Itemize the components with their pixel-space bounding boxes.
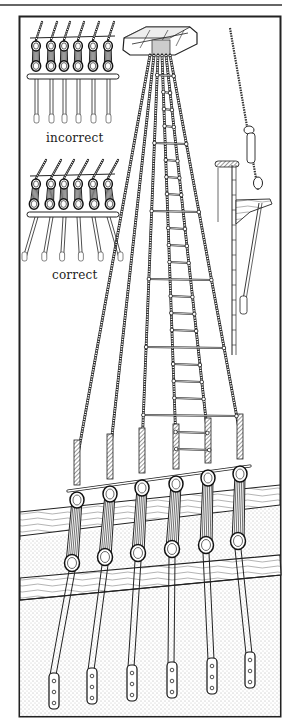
clove-hitch [184, 142, 188, 146]
inset-channel [27, 74, 119, 79]
clove-hitch [197, 210, 201, 214]
bolt [248, 680, 252, 684]
bolt [170, 679, 174, 683]
clove-hitch [170, 108, 174, 112]
clove-hitch [185, 244, 189, 248]
deadeye-pair [103, 41, 112, 71]
bolt [90, 674, 94, 678]
deadeye-pair [88, 41, 97, 71]
deadeye-pair [89, 179, 99, 209]
clove-hitch [150, 209, 154, 213]
deadeye-pair [59, 179, 68, 209]
clove-hitch [168, 260, 172, 264]
inset-channel [27, 212, 119, 217]
lower-deadeye [165, 541, 180, 558]
incorrect-label: incorrect [46, 131, 103, 145]
clove-hitch [207, 448, 211, 452]
serving [74, 440, 80, 485]
clove-hitch [210, 278, 214, 282]
clove-hitch [172, 74, 176, 78]
clove-hitch [144, 345, 148, 349]
clove-hitch [174, 430, 178, 434]
clove-hitch [155, 73, 159, 77]
clove-hitch [187, 261, 191, 265]
clove-hitch [164, 158, 168, 162]
clove-hitch [235, 414, 239, 418]
clove-hitch [179, 193, 183, 197]
deadeye-pair [74, 179, 83, 209]
clove-hitch [171, 362, 175, 366]
clove-hitch [153, 141, 157, 145]
clove-hitch [202, 397, 206, 401]
clove-hitch [191, 295, 195, 299]
clove-hitch [167, 243, 171, 247]
clove-hitch [198, 363, 202, 367]
bolt [130, 671, 134, 675]
clove-hitch [163, 124, 167, 128]
clove-hitch [170, 328, 174, 332]
clove-hitch [165, 175, 169, 179]
clove-hitch [172, 379, 176, 383]
bolt [210, 664, 214, 668]
clove-hitch [222, 346, 226, 350]
bolt [210, 675, 214, 679]
deadeye-pair [59, 41, 68, 71]
clove-hitch [162, 90, 166, 94]
clove-hitch [178, 176, 182, 180]
clove-hitch [147, 277, 151, 281]
serving [139, 428, 145, 473]
upper-deadeye [201, 470, 215, 486]
clove-hitch [206, 431, 210, 435]
bolt [210, 686, 214, 690]
serving [205, 418, 211, 463]
clove-hitch [169, 311, 173, 315]
clove-hitch [142, 413, 146, 417]
clove-hitch [169, 294, 173, 298]
clove-hitch [200, 380, 204, 384]
deadeye-pair [45, 179, 55, 209]
bolt [90, 685, 94, 689]
bolt [170, 690, 174, 694]
bolt [248, 669, 252, 673]
clove-hitch [174, 447, 178, 451]
bolt [248, 658, 252, 662]
clove-hitch [172, 125, 176, 129]
bolt [90, 696, 94, 700]
lower-deadeye [199, 537, 214, 554]
clove-hitch [173, 396, 177, 400]
rigging-illustration [0, 0, 294, 727]
clove-hitch [165, 192, 169, 196]
bolt [130, 693, 134, 697]
bolt [170, 668, 174, 672]
clove-hitch [162, 107, 166, 111]
deadeye-pair [31, 41, 40, 71]
lower-deadeye [131, 545, 146, 562]
bolt [52, 701, 56, 705]
upper-deadeye [233, 466, 247, 482]
clove-hitch [168, 91, 172, 95]
upper-deadeye [135, 480, 149, 496]
deadeye-pair [73, 41, 82, 71]
lower-deadeye [65, 555, 80, 572]
clove-hitch [183, 227, 187, 231]
upper-deadeye [70, 492, 84, 508]
upper-deadeye [169, 476, 183, 492]
lower-deadeye [231, 533, 246, 550]
lower-deadeye [98, 549, 113, 566]
correct-label: correct [52, 268, 97, 282]
bolt [52, 679, 56, 683]
clove-hitch [166, 226, 170, 230]
clove-hitch [194, 329, 198, 333]
bolt [52, 690, 56, 694]
serving [107, 434, 113, 479]
clove-hitch [192, 312, 196, 316]
upper-deadeye [103, 486, 117, 502]
bolt [130, 682, 134, 686]
deadeye-pair [46, 41, 55, 71]
clove-hitch [176, 159, 180, 163]
serving [237, 414, 243, 459]
